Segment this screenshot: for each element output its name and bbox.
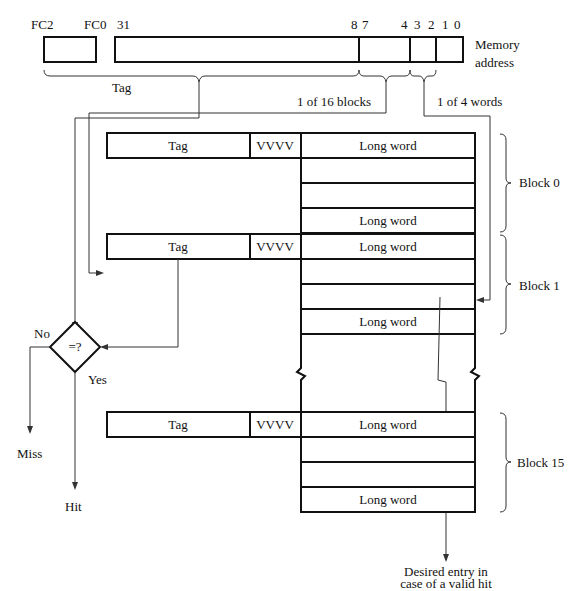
bit-label-31: 31 <box>117 17 130 32</box>
tag-brace <box>44 70 359 82</box>
yes-label: Yes <box>88 372 107 387</box>
block-0-label: Block 0 <box>519 175 560 190</box>
bit-label-0: 0 <box>454 17 461 32</box>
miss-label: Miss <box>17 446 42 461</box>
block-0-brace <box>500 134 511 232</box>
svg-text:VVVV: VVVV <box>256 417 294 432</box>
cache-block-15: Tag VVVV Long word Long word Block 15 <box>107 412 564 512</box>
tag-to-comparator-line <box>75 82 199 328</box>
svg-text:Long word: Long word <box>359 239 417 254</box>
bit-label-4: 4 <box>401 17 408 32</box>
svg-text:VVVV: VVVV <box>256 239 294 254</box>
svg-text:Tag: Tag <box>168 417 188 432</box>
comparator-symbol: =? <box>68 339 81 354</box>
long-word-2 <box>301 462 475 487</box>
svg-text:Long word: Long word <box>359 314 417 329</box>
cache-organization-diagram: FC2 FC0 31 8 7 4 3 2 1 0 Memory address … <box>0 0 580 591</box>
bit-label-fc0: FC0 <box>84 17 106 32</box>
svg-text:Long word: Long word <box>359 417 417 432</box>
block-select-brace <box>359 70 410 82</box>
hit-label: Hit <box>65 499 82 514</box>
break-line-right <box>471 334 479 412</box>
long-word-2 <box>301 183 475 208</box>
long-word-1 <box>301 437 475 462</box>
svg-text:VVVV: VVVV <box>256 138 294 153</box>
bit-label-fc2: FC2 <box>31 17 53 32</box>
svg-text:Long word: Long word <box>359 492 417 507</box>
memory-address-label-2: address <box>475 55 514 70</box>
tag-field-label: Tag <box>112 80 132 95</box>
svg-text:Tag: Tag <box>168 239 188 254</box>
svg-text:Long word: Long word <box>359 138 417 153</box>
block-15-label: Block 15 <box>517 455 564 470</box>
cache-block-0: Tag VVVV Long word Long word Block 0 <box>107 133 560 233</box>
svg-text:Tag: Tag <box>168 138 188 153</box>
long-word-2 <box>301 284 475 309</box>
cache-block-1: Tag VVVV Long word Long word Block 1 <box>107 234 560 334</box>
word-select-brace <box>410 70 436 82</box>
block-15-brace <box>500 413 511 512</box>
long-word-1 <box>301 158 475 183</box>
tag-comparator: =? No Yes Miss Hit <box>17 322 107 514</box>
bit-label-8: 8 <box>351 17 358 32</box>
block-1-brace <box>500 235 511 334</box>
long-word-1 <box>301 259 475 284</box>
blocks-label: 1 of 16 blocks <box>297 94 371 109</box>
svg-text:Long word: Long word <box>359 213 417 228</box>
bit-label-7: 7 <box>362 17 369 32</box>
cache-tag-to-comparator-line <box>102 259 178 347</box>
block-1-label: Block 1 <box>519 278 560 293</box>
memory-address-label-1: Memory <box>475 37 520 52</box>
memory-address-register: FC2 FC0 31 8 7 4 3 2 1 0 Memory address … <box>31 17 520 109</box>
bit-label-2: 2 <box>428 17 435 32</box>
miss-path <box>30 347 50 432</box>
no-label: No <box>34 326 50 341</box>
bit-label-3: 3 <box>414 17 421 32</box>
break-line-left <box>297 334 305 412</box>
function-code-field <box>44 37 96 62</box>
words-label: 1 of 4 words <box>437 94 502 109</box>
desired-entry-label-2: case of a valid hit <box>400 576 492 591</box>
bit-label-1: 1 <box>442 17 449 32</box>
